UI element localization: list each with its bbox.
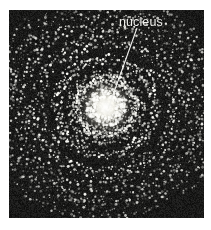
galaxy-scatter-canvas — [9, 10, 204, 218]
figure-root: nucleus — [0, 0, 211, 230]
nucleus-label: nucleus — [119, 16, 163, 29]
galaxy-plate: nucleus — [9, 10, 204, 218]
